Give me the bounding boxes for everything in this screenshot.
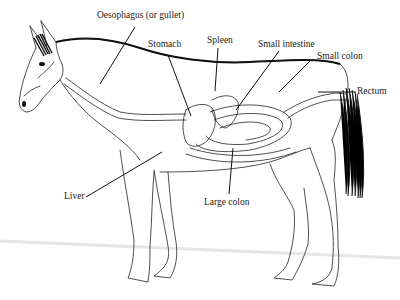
nostril: [22, 101, 26, 107]
floor-shadow: [0, 241, 400, 258]
horse-digestive-diagram: Oesophagus (or gullet) Stomach Spleen Sm…: [0, 0, 400, 300]
eye: [39, 62, 45, 66]
label-liver: Liver: [64, 192, 85, 202]
label-large-colon: Large colon: [204, 198, 249, 208]
label-spleen: Spleen: [207, 36, 233, 46]
label-rectum: Rectum: [357, 87, 387, 97]
leader-small-intestine: [236, 51, 279, 110]
label-oesophagus: Oesophagus (or gullet): [97, 11, 184, 21]
leader-oesophagus: [100, 27, 135, 84]
label-stomach: Stomach: [148, 40, 181, 50]
horse-illustration: [0, 0, 400, 300]
leader-small-colon: [279, 60, 311, 92]
leader-spleen: [215, 48, 218, 91]
leader-lines: [86, 27, 356, 197]
tail: [340, 88, 364, 198]
leader-stomach: [168, 55, 191, 116]
leader-liver: [86, 152, 162, 197]
label-small-intestine: Small intestine: [258, 40, 315, 50]
mane: [34, 34, 52, 56]
label-small-colon: Small colon: [317, 52, 363, 62]
